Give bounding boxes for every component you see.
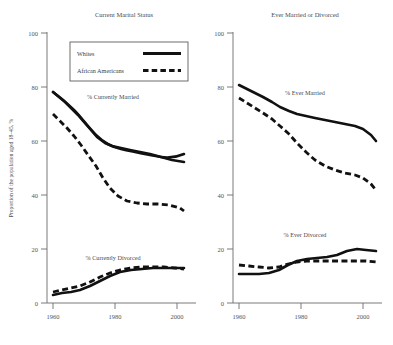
line-left-married-whites-body xyxy=(53,92,184,162)
figure-root: Current Marital Status 100 80 60 40 20 0… xyxy=(0,0,393,345)
y-axis-title: Proportion of the population aged 18–45,… xyxy=(8,118,14,217)
y-tick-label-left-60: 60 xyxy=(32,138,39,145)
x-tick-label-left-1960: 1960 xyxy=(47,313,60,320)
panel-current-marital-status: Current Marital Status 100 80 60 40 20 0… xyxy=(8,11,196,320)
panel-title-right: Ever Married or Divorced xyxy=(271,11,339,18)
annotation-ever-married: % Ever Married xyxy=(285,89,326,96)
line-right-ever-married-african-americans xyxy=(239,98,376,190)
annotation-currently-married: % Currently Married xyxy=(87,93,140,100)
panel-title-left: Current Marital Status xyxy=(95,11,154,18)
y-tick-label-right-60: 60 xyxy=(218,138,225,145)
y-ticks-left: 100 80 60 40 20 0 xyxy=(28,30,47,307)
line-right-ever-divorced-african-americans xyxy=(239,261,376,268)
line-left-divorced-african-americans xyxy=(53,267,184,292)
x-ticks-right: 1960 1980 2000 xyxy=(233,303,370,320)
x-tick-label-left-2000: 2000 xyxy=(171,313,184,320)
legend: Whites African Americans xyxy=(70,42,188,81)
panel-ever-married-or-divorced: Ever Married or Divorced 100 80 60 40 20… xyxy=(214,11,382,320)
y-tick-label-right-40: 40 xyxy=(218,192,225,199)
x-ticks-left: 1960 1980 2000 xyxy=(47,303,184,320)
y-tick-label-left-20: 20 xyxy=(32,246,39,253)
x-tick-label-right-1980: 1980 xyxy=(295,313,308,320)
annotation-ever-divorced: % Ever Divorced xyxy=(284,231,328,238)
line-left-married-african-americans xyxy=(53,114,184,211)
annotation-currently-divorced: % Currently Divorced xyxy=(86,254,142,261)
x-tick-label-right-1960: 1960 xyxy=(233,313,246,320)
y-ticks-right: 100 80 60 40 20 0 xyxy=(214,30,233,307)
y-tick-label-right-100: 100 xyxy=(214,30,224,37)
y-tick-label-left-80: 80 xyxy=(32,84,39,91)
legend-label-whites: Whites xyxy=(77,50,95,57)
y-tick-label-left-0: 0 xyxy=(35,300,38,307)
line-left-divorced-whites xyxy=(53,268,184,295)
x-tick-label-right-2000: 2000 xyxy=(357,313,370,320)
x-tick-label-left-1980: 1980 xyxy=(109,313,122,320)
y-tick-label-right-20: 20 xyxy=(218,246,225,253)
y-tick-label-left-40: 40 xyxy=(32,192,39,199)
y-tick-label-right-0: 0 xyxy=(221,300,224,307)
legend-box xyxy=(70,42,188,81)
y-tick-label-left-100: 100 xyxy=(28,30,38,37)
y-tick-label-right-80: 80 xyxy=(218,84,225,91)
legend-label-african-americans: African Americans xyxy=(77,67,124,74)
